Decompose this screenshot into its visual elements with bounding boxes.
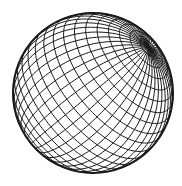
sphere-outline — [13, 13, 173, 173]
grid-line — [24, 47, 161, 135]
wireframe-sphere — [0, 0, 182, 186]
diagram-canvas — [0, 0, 182, 186]
grid-line — [38, 35, 150, 153]
grid-line — [35, 38, 152, 147]
